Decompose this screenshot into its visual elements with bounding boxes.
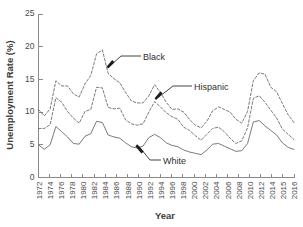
series-lines bbox=[39, 50, 295, 155]
series-line-black bbox=[39, 50, 295, 128]
x-tick-label: 2002 bbox=[201, 181, 210, 199]
y-tick-label: 5 bbox=[30, 139, 35, 149]
y-axis-ticks: 0510152025 bbox=[25, 8, 42, 182]
annotation-black: Black bbox=[107, 52, 166, 69]
x-tick-label: 1984 bbox=[101, 181, 110, 199]
x-tick-label: 2012 bbox=[257, 181, 266, 199]
x-tick-label: 1980 bbox=[79, 181, 88, 199]
x-tick-label: 2016 bbox=[290, 181, 299, 199]
x-tick-label: 1992 bbox=[146, 181, 155, 199]
x-tick-label: 2004 bbox=[212, 181, 221, 199]
x-tick-label: 2008 bbox=[235, 181, 244, 199]
x-tick-label: 1998 bbox=[179, 181, 188, 199]
x-tick-label: 1978 bbox=[68, 181, 77, 199]
annotation-hispanic: Hispanic bbox=[155, 82, 229, 101]
x-tick-label: 1972 bbox=[35, 181, 44, 199]
series-annotations: Black Hispanic White bbox=[107, 52, 229, 166]
y-tick-label: 10 bbox=[25, 106, 35, 116]
x-tick-label: 2014 bbox=[268, 181, 277, 199]
x-tick-label: 2006 bbox=[224, 181, 233, 199]
annotation-leader-black bbox=[110, 56, 142, 67]
y-axis-title: Unemployment Rate (%) bbox=[4, 40, 15, 149]
annotation-label-hispanic: Hispanic bbox=[194, 82, 229, 92]
y-tick-label: 15 bbox=[25, 74, 35, 84]
y-tick-label: 0 bbox=[30, 172, 35, 182]
x-tick-label: 1976 bbox=[57, 181, 66, 199]
x-axis: 1972197419761978198019821984198619881990… bbox=[35, 174, 300, 222]
annotation-arrowhead-white bbox=[135, 144, 143, 153]
x-tick-label: 1996 bbox=[168, 181, 177, 199]
x-tick-label: 2000 bbox=[190, 181, 199, 199]
x-tick-label: 1982 bbox=[90, 181, 99, 199]
unemployment-rate-chart: 0510152025 Unemployment Rate (%) 1972197… bbox=[0, 0, 303, 227]
annotation-arrowhead-hispanic bbox=[155, 91, 163, 100]
y-tick-label: 25 bbox=[25, 8, 35, 18]
x-tick-label: 2015 bbox=[279, 181, 288, 199]
x-tick-label: 1988 bbox=[124, 181, 133, 199]
series-line-white bbox=[39, 121, 295, 155]
annotation-label-black: Black bbox=[143, 52, 166, 62]
x-tick-label: 1974 bbox=[46, 181, 55, 199]
annotation-label-white: White bbox=[163, 156, 186, 166]
x-tick-label: 1986 bbox=[112, 181, 121, 199]
chart-canvas: 0510152025 Unemployment Rate (%) 1972197… bbox=[0, 0, 303, 227]
y-tick-label: 20 bbox=[25, 41, 35, 51]
y-axis: 0510152025 Unemployment Rate (%) bbox=[4, 8, 43, 182]
x-tick-label: 1990 bbox=[135, 181, 144, 199]
x-tick-label: 2010 bbox=[246, 181, 255, 199]
x-axis-title: Year bbox=[155, 210, 175, 221]
annotation-arrowhead-black bbox=[107, 60, 115, 69]
x-tick-label: 1994 bbox=[157, 181, 166, 199]
